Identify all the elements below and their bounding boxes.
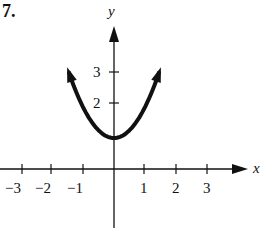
x-tick-label-1: 1: [140, 181, 148, 196]
x-axis-label: x: [253, 161, 260, 176]
curve-left-arrow-icon: [67, 67, 77, 83]
x-tick-label-neg3: −3: [5, 181, 21, 196]
y-axis-label: y: [108, 4, 115, 19]
curve-right-arrow-icon: [151, 67, 161, 83]
x-tick-label-neg1: −1: [67, 181, 83, 196]
x-axis-arrow-icon: [232, 164, 248, 174]
problem-number: 7.: [2, 2, 16, 20]
x-tick-label-3: 3: [203, 181, 211, 196]
y-tick-label-3: 3: [93, 65, 101, 80]
x-tick-label-2: 2: [172, 181, 180, 196]
x-tick-label-neg2: −2: [35, 181, 51, 196]
y-axis-arrow-icon: [109, 26, 119, 42]
y-tick-label-2: 2: [93, 96, 101, 111]
